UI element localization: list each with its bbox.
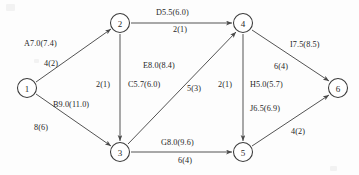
node-3-label: 3 (118, 148, 123, 158)
activity-network-diagram: 1 2 3 4 5 6 A7.0(7.4) 4(2) B9.0(11.0) 8(… (0, 0, 359, 175)
edge-A-secondary-label: 4(2) (44, 60, 58, 68)
edge-A-primary-label: A7.0(7.4) (24, 40, 57, 48)
edge-I-4-6 (252, 30, 329, 81)
edge-C-secondary-label: 2(1) (96, 81, 110, 89)
edge-J-5-6 (252, 95, 329, 146)
node-2[interactable]: 2 (111, 14, 130, 33)
node-5-label: 5 (241, 148, 246, 158)
scan-artifact (330, 166, 337, 171)
edge-I-primary-label: I7.5(8.5) (290, 41, 320, 49)
edge-B-secondary-label: 8(6) (34, 124, 48, 132)
edge-E-secondary-label: 5(3) (187, 85, 201, 93)
edge-J-primary-label: J6.5(6.9) (250, 105, 280, 113)
node-6[interactable]: 6 (329, 79, 348, 98)
node-4[interactable]: 4 (234, 14, 253, 33)
node-3[interactable]: 3 (111, 143, 130, 162)
edge-C-primary-label: C5.7(6.0) (128, 81, 160, 89)
edge-I-secondary-label: 6(4) (274, 63, 288, 71)
node-1[interactable]: 1 (18, 79, 37, 98)
node-1-label: 1 (25, 84, 30, 94)
edge-D-primary-label: D5.5(6.0) (156, 9, 189, 17)
edge-E-primary-label: E8.0(8.4) (143, 62, 175, 70)
edge-A-1-2 (36, 29, 111, 82)
edge-B-primary-label: B9.0(11.0) (53, 101, 89, 109)
node-5[interactable]: 5 (234, 143, 253, 162)
edge-J-secondary-label: 4(2) (291, 128, 305, 136)
edge-G-primary-label: G8.0(9.6) (161, 139, 194, 147)
edge-H-primary-label: H5.0(5.7) (250, 81, 283, 89)
node-6-label: 6 (336, 84, 341, 94)
scan-artifact (6, 4, 15, 11)
node-2-label: 2 (118, 19, 123, 29)
scan-artifact (34, 59, 39, 63)
edge-G-secondary-label: 6(4) (178, 157, 192, 165)
edge-H-secondary-label: 2(1) (218, 81, 232, 89)
edge-D-secondary-label: 2(1) (173, 26, 187, 34)
node-4-label: 4 (241, 19, 246, 29)
